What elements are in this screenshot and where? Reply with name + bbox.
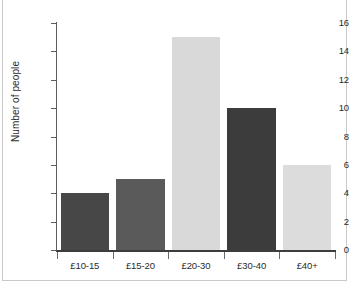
x-tick-mark — [335, 252, 336, 259]
bar — [116, 179, 165, 250]
y-axis-title: Number of people — [10, 27, 21, 177]
x-tick-mark — [224, 252, 225, 259]
x-tick-mark — [168, 252, 169, 259]
bar — [283, 165, 332, 250]
x-axis-line — [56, 250, 336, 252]
x-tick-label: £15-20 — [113, 261, 169, 271]
y-tick-mark — [51, 250, 57, 251]
x-tick-label: £40+ — [279, 261, 335, 271]
bar — [227, 108, 276, 250]
x-tick-label: £20-30 — [168, 261, 224, 271]
plot-area — [57, 23, 335, 250]
x-tick-mark — [57, 252, 58, 259]
x-tick-label: £30-40 — [224, 261, 280, 271]
x-tick-mark — [113, 252, 114, 259]
bar — [172, 37, 221, 250]
bar — [61, 193, 110, 250]
x-tick-mark — [279, 252, 280, 259]
x-tick-label: £10-15 — [57, 261, 113, 271]
bar-chart-figure: Number of people 0246810121416 £10-15£15… — [0, 0, 349, 285]
